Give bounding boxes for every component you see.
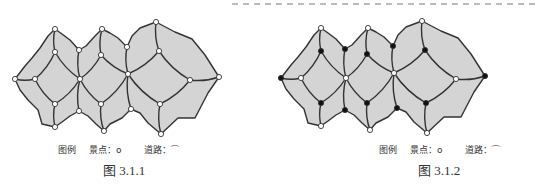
scenic-spot bbox=[52, 49, 57, 54]
scenic-spot bbox=[187, 77, 192, 82]
scenic-spot bbox=[124, 44, 129, 49]
scenic-map-2 bbox=[278, 18, 487, 135]
scenic-spot bbox=[76, 108, 81, 113]
scenic-spot bbox=[156, 48, 161, 53]
scenic-spot bbox=[318, 123, 323, 128]
scenic-spot-filled bbox=[318, 100, 323, 105]
scenic-spot bbox=[157, 101, 162, 106]
scenic-spot bbox=[367, 127, 372, 132]
scenic-spot-filled bbox=[422, 47, 427, 52]
spot-icon: o bbox=[116, 145, 122, 155]
legend-road-label: 道路： bbox=[465, 145, 492, 155]
scenic-spot-filled bbox=[390, 43, 395, 48]
legend-title: 图例 bbox=[379, 145, 397, 155]
legend-title: 图例 bbox=[58, 145, 76, 155]
legend-spot-label: 景点： bbox=[410, 145, 437, 155]
scenic-spot bbox=[298, 75, 303, 80]
figure-caption-2: 图 3.1.2 bbox=[418, 160, 460, 179]
legend-1: 图例 景点：o 道路：⁀ bbox=[58, 143, 189, 156]
scenic-spot-filled bbox=[342, 46, 347, 51]
road-icon: ⁀ bbox=[171, 145, 178, 155]
scenic-spot bbox=[12, 76, 17, 81]
scenic-spot-filled bbox=[364, 100, 369, 105]
scenic-spot bbox=[153, 19, 158, 24]
scenic-spot bbox=[125, 71, 130, 76]
legend-road-label: 道路： bbox=[144, 145, 171, 155]
road-icon: ⁀ bbox=[492, 145, 499, 155]
scenic-spot-filled bbox=[278, 75, 283, 80]
legend-spot-label: 景点： bbox=[89, 145, 116, 155]
scenic-spot bbox=[391, 70, 396, 75]
scenic-spot-filled bbox=[423, 100, 428, 105]
scenic-spot bbox=[77, 76, 82, 81]
scenic-spot bbox=[453, 76, 458, 81]
scenic-spot bbox=[128, 106, 133, 111]
scenic-spot bbox=[365, 25, 370, 30]
scenic-spot bbox=[343, 75, 348, 80]
scenic-spot bbox=[158, 131, 163, 136]
figure-caption-1: 图 3.1.1 bbox=[103, 160, 145, 179]
scenic-spot bbox=[318, 25, 323, 30]
scenic-spot bbox=[216, 74, 221, 79]
scenic-spot-filled bbox=[482, 73, 487, 78]
scenic-spot-filled bbox=[318, 48, 323, 53]
scenic-spot-filled bbox=[394, 105, 399, 110]
scenic-spot bbox=[76, 47, 81, 52]
legend-2: 图例 景点：o 道路：⁀ bbox=[379, 143, 510, 156]
scenic-spot bbox=[424, 130, 429, 135]
scenic-spot bbox=[98, 101, 103, 106]
scenic-spot bbox=[99, 26, 104, 31]
scenic-spot bbox=[101, 128, 106, 133]
spot-icon: o bbox=[437, 145, 443, 155]
scenic-spot bbox=[52, 26, 57, 31]
scenic-spot-filled bbox=[342, 107, 347, 112]
scenic-spot bbox=[52, 101, 57, 106]
scenic-spot-filled bbox=[364, 51, 369, 56]
diagram-canvas bbox=[0, 0, 543, 189]
scenic-map-1 bbox=[12, 19, 221, 136]
scenic-spot bbox=[32, 76, 37, 81]
scenic-spot bbox=[98, 52, 103, 57]
scenic-spot bbox=[52, 124, 57, 129]
scenic-spot bbox=[419, 18, 424, 23]
